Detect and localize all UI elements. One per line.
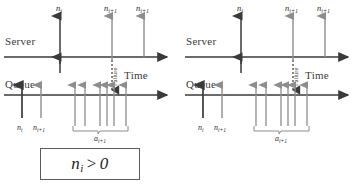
panel-right-diagram: Server Queue Time ni ni+1 ni+1 Failure n… <box>181 0 361 190</box>
queue-arrival-group <box>75 85 126 126</box>
queue-arrival-label-ni1: ni+1 <box>214 123 226 133</box>
failure-label: Failure <box>292 67 299 86</box>
time-axis-label: Time <box>124 69 148 81</box>
bracket-label: ai+1 <box>275 134 287 144</box>
server-arrow-label-2: ni+1 <box>104 3 117 14</box>
queue-arrival-label-ni1: ni+1 <box>33 123 45 133</box>
server-arrow-label-1: ni <box>237 3 243 14</box>
arrival-bracket <box>254 126 309 134</box>
panel-left: Server Queue Time ni ni+1 ni+1 Failure n… <box>0 0 180 190</box>
server-arrow-label-1: ni <box>56 3 62 14</box>
case-box-left-text: ni>0 <box>71 154 109 174</box>
queue-arrival-label-ni: ni <box>198 123 204 133</box>
server-arrow-label-2: ni+1 <box>285 3 298 14</box>
time-axis-label: Time <box>305 69 329 81</box>
case-box-left: ni>0 <box>40 148 140 180</box>
failure-label: Failure <box>111 67 118 86</box>
panel-right: Server Queue Time ni ni+1 ni+1 Failure n… <box>181 0 361 190</box>
server-axis-label: Server <box>5 35 36 47</box>
server-axis-label: Server <box>186 35 217 47</box>
queue-arrival-label-ni: ni <box>17 123 23 133</box>
bracket-label: ai+1 <box>94 134 106 144</box>
queue-axis-label: Queue <box>5 78 35 90</box>
server-arrow-label-3: ni+1 <box>136 3 149 14</box>
server-arrow-label-3: ni+1 <box>317 3 330 14</box>
queue-arrival-group <box>256 85 307 126</box>
arrival-bracket <box>73 126 128 134</box>
queue-axis-label: Queue <box>186 78 216 90</box>
